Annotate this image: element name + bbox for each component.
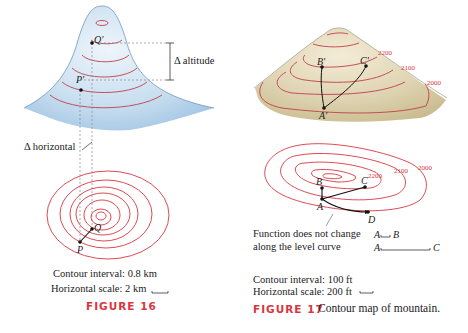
elevation-map-2100: 2100 (394, 167, 408, 175)
label-a: A (317, 201, 323, 212)
scale-ac-from: A (374, 242, 380, 253)
horizontal-scale-17: Horizontal scale: 200 ft (253, 286, 352, 297)
elevation-3d-2100: 2100 (401, 64, 415, 72)
elevation-map-2000: 2000 (418, 164, 432, 172)
elevation-3d-2200: 2200 (378, 49, 392, 57)
elevation-map-2200: 2200 (368, 172, 382, 180)
scale-ac-to: C (433, 242, 440, 253)
label-b-prime: B′ (317, 56, 325, 67)
tan-mountain (254, 28, 447, 122)
scale-ab-from: A (374, 229, 380, 240)
scale-ab-to: B (393, 229, 399, 240)
label-d: D (368, 214, 375, 225)
contour-map-17 (265, 144, 427, 211)
annotation-line-2: along the level curve (253, 241, 341, 252)
contour-interval-17: Contour interval: 100 ft (253, 274, 352, 285)
annotation-line-1: Function does not change (253, 228, 361, 239)
figure-17-caption-label: FIGURE 17 (253, 303, 324, 315)
elevation-3d-2000: 2000 (427, 79, 441, 87)
figure-17-caption-text: Contour map of mountain. (318, 302, 440, 314)
label-a-prime: A′ (319, 110, 327, 121)
label-b: B (316, 176, 322, 187)
label-c-prime: C′ (360, 55, 369, 66)
label-c: C (361, 175, 368, 186)
